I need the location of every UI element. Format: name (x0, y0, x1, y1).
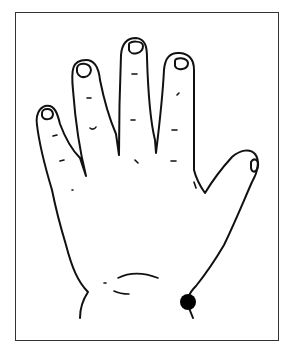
nail-middle (129, 42, 143, 54)
hand-outline (37, 38, 258, 318)
nail-thumb (251, 159, 258, 171)
nail-index (175, 58, 188, 69)
nail-pinky (42, 109, 53, 119)
marker-dot (180, 294, 196, 310)
hand-drawing (0, 0, 299, 364)
nail-ring (77, 64, 91, 77)
